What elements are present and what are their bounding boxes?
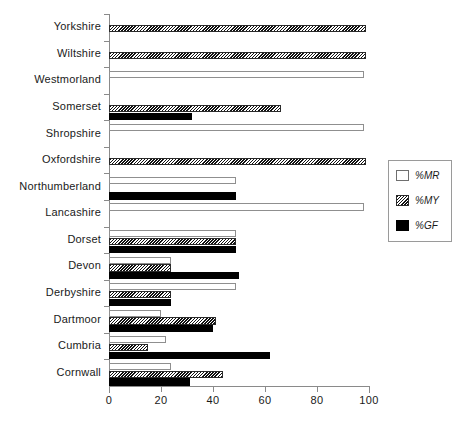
- plot-area: [109, 14, 369, 386]
- bar-gf: [109, 113, 192, 120]
- legend-label-mr: %MR: [415, 170, 439, 181]
- y-axis-label: Dartmoor: [54, 314, 101, 325]
- y-axis-label: Devon: [68, 260, 101, 271]
- bar-gf: [109, 378, 190, 385]
- x-axis-tick: [265, 386, 266, 392]
- bar-mr: [109, 124, 364, 131]
- legend: %MR %MY %GF: [388, 160, 452, 242]
- bar-mr: [109, 203, 364, 210]
- legend-swatch-my-icon: [396, 195, 409, 206]
- y-axis-label: Westmorland: [34, 74, 101, 85]
- x-axis-tick-label: 20: [141, 395, 181, 406]
- bar-gf: [109, 246, 236, 253]
- bar-mr: [109, 336, 166, 343]
- bar-my: [109, 238, 236, 245]
- y-axis-label: Somerset: [52, 101, 101, 112]
- bar-chart: YorkshireWiltshireWestmorlandSomersetShr…: [0, 0, 465, 436]
- y-axis-label: Wiltshire: [57, 48, 101, 59]
- x-axis-tick-label: 40: [193, 395, 233, 406]
- bar-my: [109, 158, 366, 165]
- bar-gf: [109, 352, 270, 359]
- y-axis-label: Derbyshire: [46, 287, 101, 298]
- bar-mr: [109, 363, 171, 370]
- y-axis-label: Yorkshire: [54, 21, 101, 32]
- bar-my: [109, 105, 281, 112]
- bar-my: [109, 371, 223, 378]
- y-axis-labels: YorkshireWiltshireWestmorlandSomersetShr…: [0, 0, 101, 372]
- legend-swatch-mr-icon: [396, 170, 409, 181]
- bar-my: [109, 264, 171, 271]
- bar-mr: [109, 230, 236, 237]
- y-axis-label: Dorset: [67, 234, 101, 245]
- bar-gf: [109, 325, 213, 332]
- x-axis-tick: [317, 386, 318, 392]
- y-axis-label: Shropshire: [46, 128, 101, 139]
- legend-swatch-gf-icon: [396, 220, 409, 231]
- bar-my: [109, 344, 148, 351]
- bar-my: [109, 291, 171, 298]
- bar-gf: [109, 192, 236, 199]
- x-axis-tick: [369, 386, 370, 393]
- bar-mr: [109, 283, 236, 290]
- x-axis-line: [109, 386, 370, 387]
- x-axis-tick: [161, 386, 162, 392]
- y-axis-label: Lancashire: [45, 207, 101, 218]
- bar-mr: [109, 71, 364, 78]
- y-axis-label: Oxfordshire: [42, 154, 101, 165]
- y-axis-label: Cornwall: [57, 367, 101, 378]
- legend-label-my: %MY: [415, 195, 439, 206]
- bar-my: [109, 52, 366, 59]
- bar-my: [109, 317, 216, 324]
- y-axis-label: Cumbria: [58, 340, 101, 351]
- legend-label-gf: %GF: [415, 220, 438, 231]
- bar-gf: [109, 299, 171, 306]
- bar-mr: [109, 257, 171, 264]
- x-axis-tick-label: 0: [89, 395, 129, 406]
- bar-mr: [109, 177, 236, 184]
- x-axis-tick-label: 80: [297, 395, 337, 406]
- bar-my: [109, 25, 366, 32]
- bar-gf: [109, 272, 239, 279]
- x-axis-tick-label: 100: [349, 395, 389, 406]
- y-axis-label: Northumberland: [19, 181, 101, 192]
- x-axis-tick-label: 60: [245, 395, 285, 406]
- x-axis-tick: [109, 386, 110, 393]
- bar-mr: [109, 310, 161, 317]
- x-axis-tick: [213, 386, 214, 392]
